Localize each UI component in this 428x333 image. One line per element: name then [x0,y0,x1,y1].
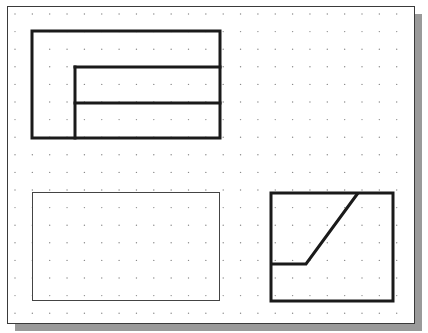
grid-dot [118,154,119,155]
grid-dot [344,84,345,85]
grid-dot [188,13,189,14]
grid-dot [188,84,189,85]
grid-dot [14,295,15,296]
grid-dot [14,13,15,14]
grid-dot [223,119,224,120]
grid-dot [240,119,241,120]
grid-dot [240,84,241,85]
grid-dot [292,154,293,155]
grid-dot [84,225,85,226]
grid-dot [66,207,67,208]
grid-dot [344,189,345,190]
grid-dot [32,172,33,173]
grid-dot [327,260,328,261]
grid-dot [84,313,85,314]
grid-dot [49,154,50,155]
grid-dot [153,313,154,314]
grid-dot [84,84,85,85]
grid-dot [275,189,276,190]
grid-dot [84,207,85,208]
grid-dot [49,172,50,173]
grid-dot [327,119,328,120]
grid-dot [379,189,380,190]
grid-dot [292,242,293,243]
grid-dot [205,172,206,173]
grid-dot [170,207,171,208]
grid-dot [153,49,154,50]
grid-dot [49,277,50,278]
grid-dot [344,101,345,102]
grid-dot [223,260,224,261]
grid-dot [344,13,345,14]
grid-dot [344,277,345,278]
grid-dot [153,225,154,226]
grid-dot [136,242,137,243]
grid-dot [101,49,102,50]
grid-dot [170,225,171,226]
grid-dot [344,154,345,155]
grid-dot [327,84,328,85]
grid-dot [170,189,171,190]
grid-dot [118,13,119,14]
grid-dot [379,49,380,50]
grid-dot [14,189,15,190]
grid-dot [257,84,258,85]
grid-dot [118,260,119,261]
grid-dot [292,225,293,226]
grid-dot [396,119,397,120]
grid-dot [32,154,33,155]
grid-dot [14,313,15,314]
grid-dot [327,172,328,173]
grid-dot [396,31,397,32]
grid-dot [66,260,67,261]
grid-dot [188,225,189,226]
grid-dot [101,84,102,85]
grid-dot [84,242,85,243]
grid-dot [66,225,67,226]
grid-dot [292,189,293,190]
grid-dot [205,207,206,208]
grid-dot [118,172,119,173]
grid-dot [223,277,224,278]
grid-dot [344,66,345,67]
grid-dot [170,13,171,14]
grid-dot [257,277,258,278]
grid-dot [379,260,380,261]
grid-dot [396,277,397,278]
grid-dot [379,84,380,85]
grid-dot [101,189,102,190]
grid-dot [240,13,241,14]
grid-dot [170,277,171,278]
grid-dot [257,154,258,155]
grid-dot [292,172,293,173]
grid-dot [379,137,380,138]
grid-dot [101,13,102,14]
grid-dot [136,13,137,14]
grid-dot [292,101,293,102]
grid-dot [361,207,362,208]
grid-dot [361,313,362,314]
grid-dot [205,84,206,85]
grid-dot [118,207,119,208]
grid-dot [84,119,85,120]
grid-dot [205,295,206,296]
grid-dot [327,101,328,102]
grid-dot [309,277,310,278]
grid-dot [257,66,258,67]
grid-dot [66,84,67,85]
grid-dot [66,189,67,190]
grid-dot [275,66,276,67]
grid-dot [309,189,310,190]
grid-dot [223,49,224,50]
grid-dot [188,119,189,120]
grid-dot [309,172,310,173]
grid-dot [309,207,310,208]
grid-dot [49,207,50,208]
grid-dot [257,13,258,14]
grid-dot [275,313,276,314]
grid-dot [344,31,345,32]
grid-dot [275,154,276,155]
grid-dot [205,277,206,278]
grid-dot [396,189,397,190]
grid-dot [170,313,171,314]
